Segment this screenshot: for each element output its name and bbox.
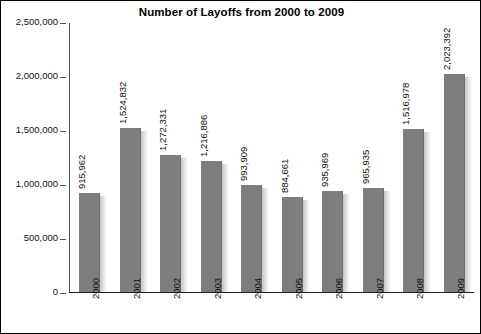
x-tick-label: 2006	[333, 278, 344, 299]
bar	[241, 185, 262, 292]
x-tick-label: 2001	[131, 278, 142, 299]
y-tick-label: 2,000,000	[0, 70, 58, 81]
bar-slot: 935,969	[313, 23, 354, 292]
x-axis-labels: 2000200120022003200420052006200720082009	[70, 297, 474, 334]
bar-slot: 965,935	[354, 23, 395, 292]
y-tick-label: 0	[0, 286, 58, 297]
x-tick-label: 2008	[414, 278, 425, 299]
plot-area: 0500,0001,000,0001,500,0002,000,0002,500…	[69, 23, 474, 293]
x-tick-label: 2004	[252, 278, 263, 299]
x-tick-label: 2003	[212, 278, 223, 299]
y-tick-mark	[60, 23, 66, 24]
chart-figure: Number of Layoffs from 2000 to 2009 0500…	[0, 0, 481, 334]
y-tick-label: 1,500,000	[0, 124, 58, 135]
cropped-text-remnant	[61, 0, 251, 2]
bar-slot: 1,524,832	[111, 23, 152, 292]
x-tick-label: 2005	[293, 278, 304, 299]
y-tick-mark	[60, 77, 66, 78]
y-tick-label: 500,000	[0, 232, 58, 243]
bar-shadow	[424, 132, 431, 292]
bar-shadow	[262, 188, 269, 292]
bar-value-label: 915,962	[76, 155, 87, 189]
bar	[363, 188, 384, 292]
bar	[403, 129, 424, 292]
x-tick-label: 2000	[90, 278, 101, 299]
bar-shadow	[100, 196, 107, 292]
bar-value-label: 1,216,886	[198, 115, 209, 157]
chart-title: Number of Layoffs from 2000 to 2009	[1, 6, 481, 18]
bar-value-label: 1,516,978	[400, 83, 411, 125]
x-tick-label: 2009	[455, 278, 466, 299]
y-tick-mark	[60, 239, 66, 240]
y-tick-mark	[60, 131, 66, 132]
bar-slot: 1,516,978	[394, 23, 435, 292]
bar-value-label: 2,023,392	[441, 28, 452, 70]
bar-shadow	[222, 164, 229, 292]
bar-value-label: 1,524,832	[117, 82, 128, 124]
bar-slot: 915,962	[70, 23, 111, 292]
bar-value-label: 1,272,331	[157, 109, 168, 151]
bar-value-label: 884,661	[279, 158, 290, 192]
bar-slot: 1,216,886	[192, 23, 233, 292]
x-tick-label: 2002	[171, 278, 182, 299]
bar-slot: 884,661	[273, 23, 314, 292]
y-tick-label: 2,500,000	[0, 16, 58, 27]
bar-slot: 2,023,392	[435, 23, 476, 292]
bar-shadow	[384, 191, 391, 292]
y-tick-label: 1,000,000	[0, 178, 58, 189]
bar-slot: 993,909	[232, 23, 273, 292]
bar-series: 915,9621,524,8321,272,3311,216,886993,90…	[70, 23, 474, 292]
bar-value-label: 935,969	[319, 153, 330, 187]
bar-shadow	[465, 77, 472, 292]
bar-value-label: 965,935	[360, 150, 371, 184]
bar-value-label: 993,909	[238, 147, 249, 181]
x-tick-label: 2007	[374, 278, 385, 299]
bar-shadow	[181, 158, 188, 292]
bar-shadow	[141, 131, 148, 292]
bar	[120, 128, 141, 292]
y-tick-mark	[60, 185, 66, 186]
bar	[160, 155, 181, 292]
bar	[201, 161, 222, 292]
bar	[444, 74, 465, 292]
y-tick-mark	[60, 293, 66, 294]
bar-slot: 1,272,331	[151, 23, 192, 292]
bar-shadow	[343, 194, 350, 292]
